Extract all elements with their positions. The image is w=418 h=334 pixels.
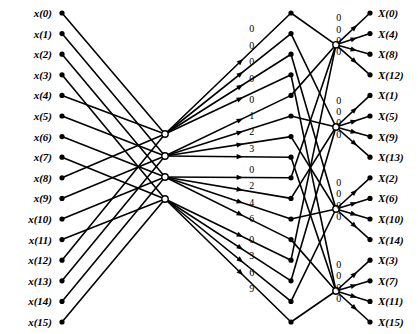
twiddle-node-dot [288,93,293,98]
twiddle-exponent-14: 6 [249,268,254,278]
output-twiddle-exponent-5: 0 [336,107,341,117]
input-node-dot [59,52,64,57]
output-twiddle-exponent-10: 0 [336,201,341,211]
output-twiddle-exponent-1: 0 [336,25,341,35]
output-node-dot [367,299,372,304]
output-label-4: X(1) [378,90,398,101]
output-label-5: X(5) [378,111,398,122]
edge-arrowhead [350,129,357,134]
twiddle-exponent-0: 0 [249,24,254,34]
output-node-dot [367,216,372,221]
twiddle-node-dot [288,299,293,304]
edge-hub1-to-twiddle [165,177,291,198]
twiddle-node-dot [288,113,293,118]
twiddle-node-dot [288,52,293,57]
input-label-8: x(8) [34,172,52,183]
output-label-12: X(3) [378,255,398,266]
twiddle-node-dot [288,237,293,242]
twiddle-exponent-5: 1 [249,111,254,121]
twiddle-node-dot [288,319,293,324]
edge-input-to-hub1 [62,199,165,240]
twiddle-node-dot [288,175,293,180]
twiddle-exponent-7: 3 [249,144,254,154]
output-label-3: X(12) [378,69,404,80]
input-label-9: x(9) [34,193,52,204]
edge-arrowhead [237,175,244,180]
stage1-edges-group [62,13,165,322]
input-node-dot [59,155,64,160]
input-label-2: x(2) [34,49,52,60]
twiddle-exponent-10: 4 [249,198,254,208]
edge-arrowhead [236,244,243,250]
input-node-dot [59,299,64,304]
output-twiddle-exponent-15: 0 [336,294,341,304]
input-node-dot [59,216,64,221]
twiddle-exponent-12: 0 [249,235,254,245]
input-label-1: x(1) [34,28,52,39]
twiddle-node-dot [288,10,293,15]
edge-input-to-hub1 [62,134,165,260]
output-node-dot [367,237,372,242]
output-twiddle-exponent-11: 0 [336,212,341,222]
twiddle-exponent-2: 0 [249,57,254,67]
input-label-11: x(11) [29,234,52,245]
stage1-hub-nodes-group [162,131,168,202]
twiddle-exponent-1: 0 [249,41,254,51]
output-twiddle-exponent-2: 0 [336,36,341,46]
output-label-14: X(11) [378,296,403,307]
edge-twiddle-to-hub2 [291,45,336,96]
output-twiddle-exponent-14: 0 [336,283,341,293]
output-twiddle-exponent-12: 0 [336,260,341,270]
fft-flow-graph-figure: x(0)x(1)x(2)x(3)x(4)x(5)x(6)x(7)x(8)x(9)… [0,0,418,334]
twiddle-exponent-8: 0 [249,165,254,175]
output-node-dot [367,196,372,201]
twiddle-node-dot [288,258,293,263]
output-twiddle-exponent-9: 0 [336,189,341,199]
twiddle-node-dot [288,196,293,201]
output-node-dot [367,72,372,77]
edge-hub1-to-twiddle [165,177,291,178]
edge-twiddle-to-hub2 [291,13,336,45]
output-node-dot [367,31,372,36]
input-label-7: x(7) [34,152,52,163]
edge-twiddle-to-hub2 [291,291,336,322]
edge-arrowhead [350,211,357,216]
output-node-dot [367,278,372,283]
output-label-13: X(7) [378,275,398,286]
input-label-3: x(3) [34,69,52,80]
edge-hub1-to-twiddle [165,177,291,219]
stage1-to-twiddle-edges-group [165,13,291,322]
edge-arrowhead [236,118,243,123]
output-twiddle-exponent-13: 0 [336,271,341,281]
edge-arrowhead [350,202,357,207]
output-node-dot [367,134,372,139]
stage1-hub-node [162,131,168,137]
input-label-10: x(10) [28,214,52,225]
edge-hub1-to-twiddle [165,199,291,281]
twiddle-node-dot [288,216,293,221]
twiddle-exponent-6: 2 [249,127,254,137]
edge-arrowhead [237,154,244,159]
edge-arrowhead [236,131,243,136]
output-twiddle-exponent-6: 0 [336,118,341,128]
twiddle-exponent-4: 0 [249,95,254,105]
edge-arrowhead [236,199,243,204]
edge-twiddle-to-hub2 [291,240,336,291]
twiddle-exponent-9: 2 [249,181,254,191]
input-node-dot [59,134,64,139]
output-node-dots-group [367,10,372,324]
edge-input-to-hub1 [62,177,165,301]
input-label-5: x(5) [34,111,52,122]
input-node-dot [59,258,64,263]
input-label-14: x(14) [28,296,52,307]
output-label-15: X(15) [378,317,404,328]
edge-arrowhead [350,37,357,42]
input-node-dot [59,31,64,36]
output-label-11: X(14) [378,234,404,245]
twiddle-exponent-13: 3 [249,251,254,261]
output-node-dot [367,258,372,263]
input-label-0: x(0) [34,8,52,19]
stage1-hub-node [162,153,168,159]
input-node-dot [59,72,64,77]
input-node-dot [59,196,64,201]
